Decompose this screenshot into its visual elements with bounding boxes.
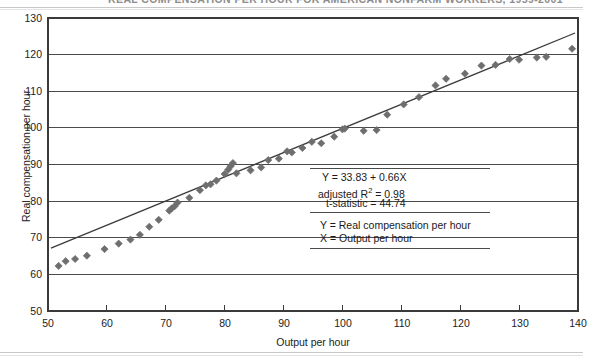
footer-divider-secondary	[0, 355, 583, 356]
x-tick-marks	[107, 305, 519, 311]
annotation-equation: Y = 33.83 + 0.66X	[322, 171, 406, 184]
annotation-legend-y: Y = Real compensation per hour	[320, 219, 471, 232]
annotation-top-rule	[310, 168, 490, 169]
annotation-bottom-rule	[310, 248, 490, 249]
footer-divider	[0, 352, 583, 353]
annotation-middle-rule	[310, 212, 490, 213]
annotation-legend-x: X = Output per hour	[320, 232, 413, 245]
scatter-points	[55, 45, 576, 269]
gridlines	[48, 55, 578, 275]
annotation-t-statistic: t-statistic = 44.74	[326, 197, 406, 210]
